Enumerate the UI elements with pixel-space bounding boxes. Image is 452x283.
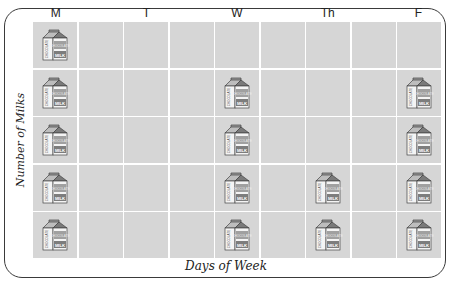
grid-cell bbox=[352, 22, 396, 68]
grid-cell: CHOCOLATE MILK CHOCOLATE bbox=[33, 117, 77, 163]
grid-cell bbox=[170, 117, 214, 163]
svg-text:MILK: MILK bbox=[237, 100, 247, 105]
grid-cell bbox=[352, 117, 396, 163]
pictograph-grid: CHOCOLATE MILK CHOCOLATE CHOCOLATE MILK … bbox=[33, 22, 441, 258]
svg-text:CHOCOLATE: CHOCOLATE bbox=[227, 230, 231, 248]
grid-cell bbox=[306, 70, 350, 116]
grid-cell: CHOCOLATE MILK CHOCOLATE bbox=[215, 70, 259, 116]
grid-cell bbox=[79, 117, 123, 163]
grid-cell bbox=[306, 22, 350, 68]
svg-text:CHOCOLATE: CHOCOLATE bbox=[50, 187, 70, 191]
grid-cell bbox=[124, 22, 168, 68]
grid-cell bbox=[124, 212, 168, 258]
svg-text:CHOCOLATE: CHOCOLATE bbox=[45, 87, 49, 105]
milk-carton-icon: CHOCOLATE MILK CHOCOLATE bbox=[40, 218, 70, 252]
svg-text:CHOCOLATE: CHOCOLATE bbox=[409, 182, 413, 200]
grid-cell bbox=[261, 117, 305, 163]
grid-cell bbox=[215, 22, 259, 68]
milk-carton-icon: CHOCOLATE MILK CHOCOLATE bbox=[313, 171, 343, 205]
svg-text:CHOCOLATE: CHOCOLATE bbox=[50, 234, 70, 238]
svg-text:MILK: MILK bbox=[419, 148, 429, 153]
svg-text:MILK: MILK bbox=[55, 243, 65, 248]
grid-cell bbox=[170, 212, 214, 258]
svg-text:MILK: MILK bbox=[419, 100, 429, 105]
svg-text:CHOCOLATE: CHOCOLATE bbox=[323, 187, 343, 191]
grid-cell bbox=[170, 70, 214, 116]
milk-carton-icon: CHOCOLATE MILK CHOCOLATE bbox=[222, 218, 252, 252]
day-label: F bbox=[415, 6, 422, 20]
grid-cell: CHOCOLATE MILK CHOCOLATE bbox=[33, 22, 77, 68]
svg-text:CHOCOLATE: CHOCOLATE bbox=[45, 40, 49, 58]
milk-carton-icon: CHOCOLATE MILK CHOCOLATE bbox=[222, 123, 252, 157]
milk-carton-icon: CHOCOLATE MILK CHOCOLATE bbox=[40, 28, 70, 62]
svg-text:CHOCOLATE: CHOCOLATE bbox=[414, 187, 434, 191]
svg-text:CHOCOLATE: CHOCOLATE bbox=[232, 187, 252, 191]
svg-text:MILK: MILK bbox=[55, 148, 65, 153]
svg-text:MILK: MILK bbox=[419, 243, 429, 248]
milk-carton-icon: CHOCOLATE MILK CHOCOLATE bbox=[404, 123, 434, 157]
svg-text:CHOCOLATE: CHOCOLATE bbox=[409, 135, 413, 153]
grid-cell bbox=[170, 165, 214, 211]
grid-cell bbox=[261, 165, 305, 211]
grid-cell: CHOCOLATE MILK CHOCOLATE bbox=[306, 165, 350, 211]
day-label: W bbox=[231, 6, 242, 20]
day-label: M bbox=[51, 6, 61, 20]
svg-text:CHOCOLATE: CHOCOLATE bbox=[50, 44, 70, 48]
svg-text:CHOCOLATE: CHOCOLATE bbox=[227, 87, 231, 105]
svg-text:CHOCOLATE: CHOCOLATE bbox=[50, 92, 70, 96]
svg-text:CHOCOLATE: CHOCOLATE bbox=[232, 234, 252, 238]
svg-text:CHOCOLATE: CHOCOLATE bbox=[414, 139, 434, 143]
grid-cell: CHOCOLATE MILK CHOCOLATE bbox=[215, 165, 259, 211]
svg-text:CHOCOLATE: CHOCOLATE bbox=[323, 234, 343, 238]
svg-text:CHOCOLATE: CHOCOLATE bbox=[45, 182, 49, 200]
grid-cell bbox=[79, 70, 123, 116]
milk-carton-icon: CHOCOLATE MILK CHOCOLATE bbox=[404, 76, 434, 110]
grid-cell bbox=[170, 22, 214, 68]
svg-text:CHOCOLATE: CHOCOLATE bbox=[227, 135, 231, 153]
grid-cell bbox=[352, 70, 396, 116]
grid-cell bbox=[124, 117, 168, 163]
grid-cell bbox=[306, 117, 350, 163]
svg-text:MILK: MILK bbox=[55, 195, 65, 200]
svg-text:CHOCOLATE: CHOCOLATE bbox=[318, 182, 322, 200]
grid-cell: CHOCOLATE MILK CHOCOLATE bbox=[215, 117, 259, 163]
grid-cell: CHOCOLATE MILK CHOCOLATE bbox=[397, 165, 441, 211]
grid-cell bbox=[79, 165, 123, 211]
svg-text:CHOCOLATE: CHOCOLATE bbox=[414, 92, 434, 96]
svg-text:MILK: MILK bbox=[237, 148, 247, 153]
svg-text:CHOCOLATE: CHOCOLATE bbox=[45, 135, 49, 153]
grid-cell: CHOCOLATE MILK CHOCOLATE bbox=[33, 212, 77, 258]
grid-cell bbox=[261, 70, 305, 116]
grid-cell bbox=[124, 165, 168, 211]
svg-text:MILK: MILK bbox=[328, 195, 338, 200]
grid-cell bbox=[261, 22, 305, 68]
svg-text:CHOCOLATE: CHOCOLATE bbox=[318, 230, 322, 248]
grid-cell bbox=[352, 212, 396, 258]
milk-carton-icon: CHOCOLATE MILK CHOCOLATE bbox=[222, 171, 252, 205]
grid-cell bbox=[124, 70, 168, 116]
svg-text:CHOCOLATE: CHOCOLATE bbox=[50, 139, 70, 143]
svg-text:CHOCOLATE: CHOCOLATE bbox=[227, 182, 231, 200]
x-axis-label: Days of Week bbox=[0, 259, 452, 273]
svg-text:CHOCOLATE: CHOCOLATE bbox=[409, 230, 413, 248]
grid-cell: CHOCOLATE MILK CHOCOLATE bbox=[397, 70, 441, 116]
grid-cell bbox=[79, 212, 123, 258]
milk-carton-icon: CHOCOLATE MILK CHOCOLATE bbox=[404, 171, 434, 205]
svg-text:CHOCOLATE: CHOCOLATE bbox=[409, 87, 413, 105]
grid-cell bbox=[352, 165, 396, 211]
grid-cell: CHOCOLATE MILK CHOCOLATE bbox=[306, 212, 350, 258]
svg-text:CHOCOLATE: CHOCOLATE bbox=[232, 92, 252, 96]
grid-cell bbox=[79, 22, 123, 68]
grid-cell: CHOCOLATE MILK CHOCOLATE bbox=[397, 117, 441, 163]
svg-text:CHOCOLATE: CHOCOLATE bbox=[45, 230, 49, 248]
milk-carton-icon: CHOCOLATE MILK CHOCOLATE bbox=[404, 218, 434, 252]
grid-cell bbox=[397, 22, 441, 68]
milk-carton-icon: CHOCOLATE MILK CHOCOLATE bbox=[40, 171, 70, 205]
grid-cell: CHOCOLATE MILK CHOCOLATE bbox=[33, 165, 77, 211]
grid-cell: CHOCOLATE MILK CHOCOLATE bbox=[33, 70, 77, 116]
y-axis-label: Number of Milks bbox=[14, 80, 27, 200]
svg-text:MILK: MILK bbox=[55, 100, 65, 105]
svg-text:MILK: MILK bbox=[55, 53, 65, 58]
milk-carton-icon: CHOCOLATE MILK CHOCOLATE bbox=[40, 123, 70, 157]
milk-carton-icon: CHOCOLATE MILK CHOCOLATE bbox=[313, 218, 343, 252]
